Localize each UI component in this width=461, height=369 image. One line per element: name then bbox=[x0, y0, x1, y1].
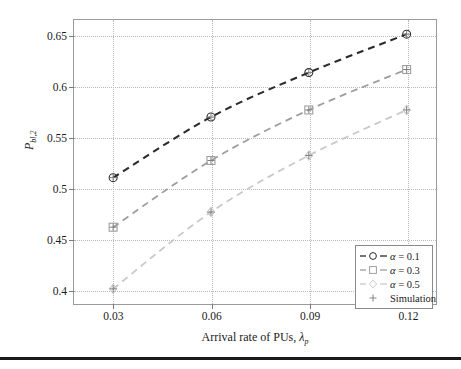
x-axis-tick-label: 0.12 bbox=[398, 310, 418, 322]
plus-marker bbox=[403, 106, 410, 113]
x-axis-tick bbox=[310, 304, 311, 309]
y-axis-tick-label: 0.65 bbox=[47, 30, 67, 42]
figure-container: Pbl,2 Arrival rate of PUs, λp 0.40.450.5… bbox=[0, 0, 461, 369]
y-axis-title-main: P bbox=[22, 143, 36, 150]
bottom-divider-rule bbox=[0, 357, 461, 360]
x-axis-tick bbox=[212, 304, 213, 309]
legend-marker bbox=[370, 267, 377, 274]
plus-marker bbox=[305, 106, 312, 113]
legend-label: α = 0.1 bbox=[389, 251, 420, 262]
diamond-marker bbox=[369, 280, 376, 288]
square-marker bbox=[370, 267, 377, 274]
legend-label: α = 0.3 bbox=[389, 265, 420, 276]
y-axis-title: Pbl,2 bbox=[22, 130, 38, 150]
legend-entry: α = 0.3 bbox=[359, 263, 428, 277]
legend-marker-sample bbox=[359, 292, 389, 304]
legend-label-symbol: α bbox=[390, 279, 396, 290]
legend-marker-sample bbox=[359, 278, 389, 290]
plus-marker bbox=[370, 295, 377, 302]
legend-entry: α = 0.1 bbox=[359, 249, 428, 263]
legend-label-symbol: α bbox=[390, 251, 396, 262]
legend-marker-sample bbox=[359, 250, 389, 262]
x-axis-title-text: Arrival rate of PUs, bbox=[202, 330, 300, 344]
legend-marker-sample bbox=[359, 264, 389, 276]
series-line bbox=[113, 34, 407, 178]
plus-marker bbox=[305, 152, 312, 159]
y-axis-tick-label: 0.55 bbox=[47, 132, 67, 144]
y-axis-tick-label: 0.4 bbox=[53, 285, 67, 297]
x-axis-title: Arrival rate of PUs, λp bbox=[73, 330, 437, 346]
y-axis-tick-label: 0.45 bbox=[47, 234, 67, 246]
plus-marker bbox=[403, 66, 410, 73]
x-axis-title-subscript: p bbox=[304, 337, 308, 346]
x-axis-tick bbox=[113, 304, 114, 309]
circle-marker bbox=[370, 253, 377, 260]
legend-entry: Simulation bbox=[359, 291, 428, 305]
legend-label-symbol: α bbox=[390, 265, 396, 276]
x-axis-tick-label: 0.09 bbox=[300, 310, 320, 322]
x-axis-tick-label: 0.03 bbox=[103, 310, 123, 322]
series-group bbox=[109, 66, 410, 232]
legend-entry: α = 0.5 bbox=[359, 277, 428, 291]
legend-marker bbox=[370, 253, 377, 260]
y-axis-tick-label: 0.5 bbox=[53, 183, 67, 195]
legend-marker bbox=[369, 280, 376, 288]
series-group bbox=[109, 30, 410, 181]
legend-label: α = 0.5 bbox=[389, 279, 420, 290]
chart-legend: α = 0.1α = 0.3α = 0.5Simulation bbox=[355, 245, 433, 309]
y-axis-tick-label: 0.6 bbox=[53, 81, 67, 93]
legend-label: Simulation bbox=[389, 293, 436, 304]
y-axis-title-subscript: bl,2 bbox=[29, 130, 38, 142]
x-axis-tick-label: 0.06 bbox=[202, 310, 222, 322]
